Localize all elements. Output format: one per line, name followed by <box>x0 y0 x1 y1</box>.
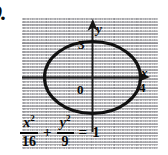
equation-plus-operator: + <box>39 124 56 141</box>
equation-term-x-squared-over-16: x2 16 <box>20 116 38 149</box>
equation-term1-numerator: x2 <box>21 116 37 132</box>
equation-term1-exponent: 2 <box>30 113 35 123</box>
x-intercept-label: 4 <box>139 81 146 94</box>
equation-term2-exponent: 2 <box>66 113 71 123</box>
equation-equals-sign: = <box>75 124 92 141</box>
equation-term1-denominator: 16 <box>20 134 38 150</box>
equation-right-side: 1 <box>91 124 100 141</box>
ellipse-equation: x2 16 + y2 9 = 1 <box>19 116 100 149</box>
x-axis-label: x <box>141 66 148 79</box>
equation-term2-numerator: y2 <box>58 116 73 132</box>
figure-container: 9. y x 3 4 0 x2 16 + y2 <box>0 0 168 155</box>
x-axis <box>22 73 150 83</box>
y-axis-label: y <box>96 22 102 35</box>
equation-term2-denominator: 9 <box>60 134 71 150</box>
origin-label: 0 <box>77 83 84 96</box>
y-intercept-label: 3 <box>78 38 85 51</box>
equation-term-y-squared-over-9: y2 9 <box>57 116 74 149</box>
